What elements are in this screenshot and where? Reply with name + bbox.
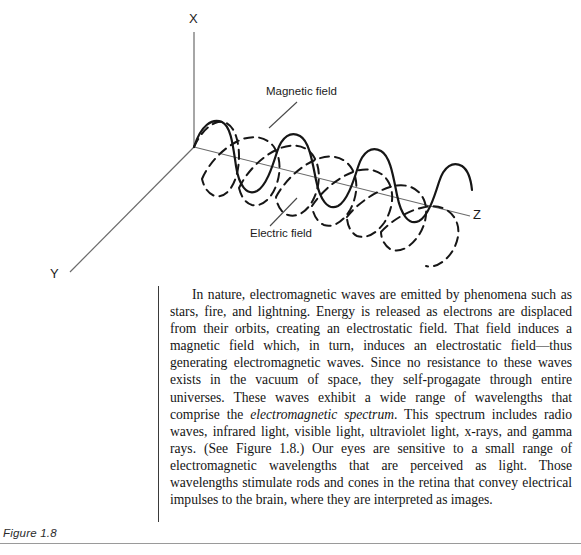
electromagnetic-wave-diagram bbox=[0, 0, 500, 300]
electric-field-label: Electric field bbox=[250, 228, 312, 240]
axis-label-z: Z bbox=[473, 208, 481, 221]
magnetic-field-label: Magnetic field bbox=[266, 86, 337, 98]
magnetic-field-wave bbox=[194, 122, 458, 267]
figure-panel: X Y Z Magnetic field Electric field In n… bbox=[0, 0, 581, 555]
axis-label-y: Y bbox=[50, 267, 59, 280]
body-text-block: In nature, electromagnetic waves are emi… bbox=[158, 286, 572, 522]
electric-field-leader-line bbox=[270, 198, 297, 226]
axis-label-x: X bbox=[189, 12, 198, 25]
bottom-divider-rule bbox=[0, 543, 581, 544]
body-paragraph: In nature, electromagnetic waves are emi… bbox=[170, 286, 572, 508]
figure-caption: Figure 1.8 bbox=[3, 527, 57, 539]
y-axis-line bbox=[70, 147, 194, 272]
magnetic-field-leader-line bbox=[269, 102, 297, 128]
